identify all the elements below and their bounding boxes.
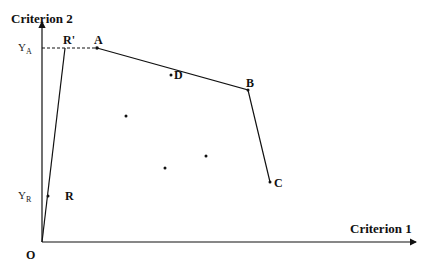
y-axis-label: Criterion 2 xyxy=(11,12,73,25)
label-r: R xyxy=(65,190,74,202)
y-tick-yr: YR xyxy=(18,190,31,204)
x-axis-label: Criterion 1 xyxy=(350,222,412,235)
point-r xyxy=(47,195,50,198)
point-d xyxy=(170,74,173,77)
point-unlabeled-3 xyxy=(205,155,208,158)
diagram-canvas: Criterion 2 Criterion 1 O YA YR R' A D B… xyxy=(0,0,429,274)
point-unlabeled-2 xyxy=(164,167,167,170)
label-r-prime: R' xyxy=(63,34,75,46)
label-c: C xyxy=(274,177,283,189)
origin-label: O xyxy=(26,249,35,261)
point-c xyxy=(269,181,272,184)
label-d: D xyxy=(174,69,183,81)
frontier-line xyxy=(97,48,270,182)
label-b: B xyxy=(246,77,254,89)
y-tick-ya: YA xyxy=(18,42,32,56)
label-a: A xyxy=(94,34,103,46)
ray-o-rprime xyxy=(42,48,65,242)
point-unlabeled-1 xyxy=(125,115,128,118)
